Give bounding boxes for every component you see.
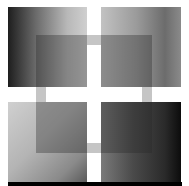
square-bottom-left — [8, 102, 87, 182]
frame-band-bottom — [87, 143, 101, 153]
overlay-shade-bottom-left — [36, 102, 87, 153]
artwork-canvas — [0, 0, 189, 186]
square-top-right — [101, 7, 181, 87]
frame-band-top — [87, 35, 101, 45]
overlay-shade-top-left — [36, 35, 87, 87]
overlay-shade-top-right — [101, 35, 152, 87]
square-bottom-right — [101, 102, 181, 182]
bottom-black-bar — [8, 182, 182, 186]
frame-band-right — [142, 87, 152, 102]
square-top-left — [8, 7, 87, 87]
frame-band-left — [36, 87, 46, 102]
overlay-shade-bottom-right — [101, 102, 152, 153]
